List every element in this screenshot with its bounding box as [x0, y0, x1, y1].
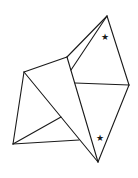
edge-bottom_left-bottom_mid: [13, 140, 79, 144]
edge-top_apex-inner_upper: [71, 16, 107, 70]
edge-upper_mid-left_upper: [24, 57, 67, 72]
edge-right-bottom_apex: [98, 85, 129, 162]
folded-triangle-diagram: [0, 0, 138, 178]
edge-top_apex-right: [107, 16, 129, 85]
edge-left_upper-bottom_left: [13, 72, 24, 144]
edge-upper_mid-bottom_apex: [67, 57, 98, 162]
edge-bottom_left-inner_low: [13, 117, 61, 144]
edge-mid_left-right: [75, 83, 129, 85]
star-upper-star-icon: ★: [101, 33, 109, 42]
star-lower-star-icon: ★: [96, 134, 104, 143]
